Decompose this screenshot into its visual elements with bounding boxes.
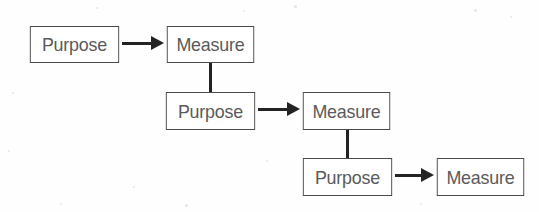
connector-line xyxy=(346,130,349,158)
scan-speck xyxy=(474,9,477,12)
flowchart-node-purpose-1: Purpose xyxy=(30,26,119,63)
flowchart-node-purpose-3: Purpose xyxy=(303,158,392,196)
node-label: Purpose xyxy=(315,167,380,186)
flowchart-node-measure-1: Measure xyxy=(167,26,254,63)
scan-speck xyxy=(60,203,62,205)
arrowhead-icon xyxy=(421,168,434,182)
arrow-shaft xyxy=(122,42,152,45)
arrow-shaft xyxy=(258,108,288,111)
scan-speck xyxy=(420,203,422,205)
connector-arrow xyxy=(122,42,164,45)
scan-speck xyxy=(133,186,135,188)
scan-speck xyxy=(12,92,14,94)
scan-speck xyxy=(266,160,268,162)
flowchart-node-measure-2: Measure xyxy=(303,92,390,130)
connector-arrow xyxy=(395,174,434,177)
flowchart-diagram: PurposeMeasurePurposeMeasurePurposeMeasu… xyxy=(0,0,539,212)
connector-arrow xyxy=(258,108,300,111)
scan-speck xyxy=(294,5,297,8)
scan-speck xyxy=(510,16,512,18)
node-label: Measure xyxy=(312,101,380,120)
connector-line xyxy=(209,63,212,92)
arrow-shaft xyxy=(395,174,422,177)
scan-speck xyxy=(8,150,10,152)
scan-speck xyxy=(185,204,188,207)
flowchart-node-measure-3: Measure xyxy=(437,158,524,196)
node-label: Purpose xyxy=(178,101,243,120)
arrowhead-icon xyxy=(287,102,300,116)
scan-speck xyxy=(96,7,98,9)
node-label: Purpose xyxy=(42,35,107,54)
scan-speck xyxy=(243,10,245,12)
flowchart-node-purpose-2: Purpose xyxy=(166,92,255,130)
node-label: Measure xyxy=(176,35,244,54)
arrowhead-icon xyxy=(151,36,164,50)
node-label: Measure xyxy=(446,167,514,186)
